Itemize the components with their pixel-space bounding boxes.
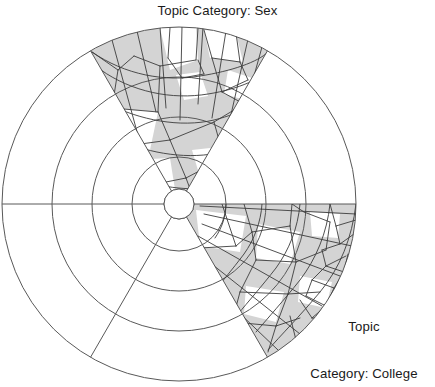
- inner-hub: [164, 189, 194, 219]
- label-topic-category-sex: Topic Category: Sex: [0, 3, 435, 19]
- figure-canvas: Topic Category: Sex Topic Category: Coll…: [0, 0, 435, 387]
- label-topic-category-college: Topic Category: College: [293, 288, 435, 387]
- spoke-240: [91, 217, 172, 357]
- label-college-line1: Topic: [293, 319, 435, 335]
- label-college-line2: Category: College: [293, 366, 435, 382]
